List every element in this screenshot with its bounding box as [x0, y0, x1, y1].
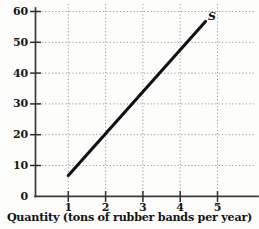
x-axis-caption: Quantity (tons of rubber bands per year) [0, 212, 259, 223]
ytick-label-10: 10 [2, 160, 28, 171]
ytick-label-40: 40 [2, 68, 28, 79]
ytick-label-30: 30 [2, 98, 28, 109]
supply-curve-label: S [208, 11, 216, 22]
ytick-label-20: 20 [2, 129, 28, 140]
ytick-label-50: 50 [2, 37, 28, 48]
ytick-label-0: 0 [2, 191, 28, 202]
ytick-label-60: 60 [2, 6, 28, 17]
chart-canvas [0, 0, 259, 229]
supply-curve-line [68, 22, 205, 176]
supply-curve-figure: 60 50 40 30 20 10 0 1 2 3 4 5 S Quantity… [0, 0, 259, 229]
